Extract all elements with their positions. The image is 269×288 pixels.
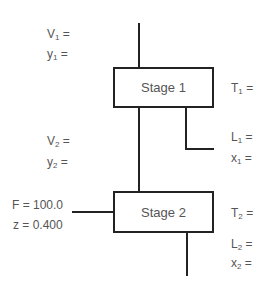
label-y2: y2 = <box>47 155 68 169</box>
stage-2-box: Stage 2 <box>113 191 214 233</box>
feed-flow-label: F = 100.0 <box>12 198 63 212</box>
label-y1: y1 = <box>47 47 68 61</box>
label-T1: T1 = <box>231 81 253 95</box>
feed-composition-label: z = 0.400 <box>13 218 63 232</box>
liquid-line-stage1-vertical <box>185 106 187 150</box>
label-L1: L1 = <box>231 130 252 144</box>
vapor-line-stage2-to-stage1 <box>138 106 140 192</box>
label-x1: x1 = <box>231 151 252 165</box>
vapor-outlet-line-top <box>138 23 140 68</box>
label-V1: V1 = <box>47 27 70 41</box>
stage-1-label: Stage 1 <box>141 80 186 95</box>
stage-2-label: Stage 2 <box>141 205 186 220</box>
label-L2: L2 = <box>231 237 252 251</box>
label-V2: V2 = <box>47 134 70 148</box>
feed-line <box>72 211 114 213</box>
label-x2: x2 = <box>231 256 252 270</box>
liquid-line-stage1-horizontal <box>185 148 214 150</box>
liquid-outlet-line-bottom <box>186 231 188 276</box>
stage-1-box: Stage 1 <box>113 67 214 108</box>
label-T2: T2 = <box>231 206 253 220</box>
